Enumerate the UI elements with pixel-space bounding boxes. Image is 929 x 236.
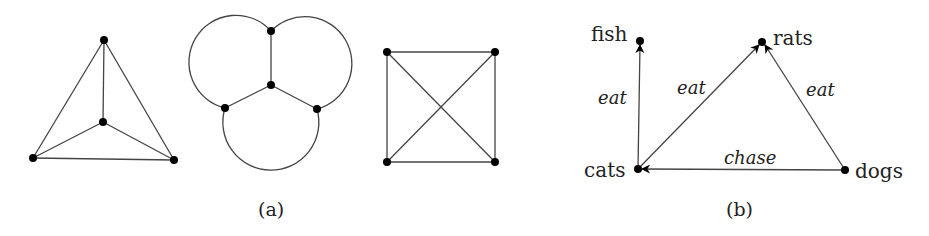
- node-fish: [636, 37, 644, 45]
- edge-label-dogs-cats: chase: [724, 147, 776, 168]
- edge-label-cats-rats: eat: [677, 77, 706, 98]
- node-top-right: [491, 48, 499, 56]
- node-dogs: [841, 166, 849, 174]
- graph-circles: [189, 15, 352, 170]
- arc-bottom: [223, 108, 319, 170]
- label-dogs: dogs: [855, 159, 903, 183]
- graph-food-chain: fish rats cats dogs eat eat eat chase: [584, 22, 903, 183]
- node-bottom-right: [491, 158, 499, 166]
- node-bottom-left: [383, 158, 391, 166]
- edge: [271, 85, 317, 109]
- graph-triangle: [29, 36, 178, 164]
- label-cats: cats: [584, 158, 625, 182]
- node-center: [99, 118, 107, 126]
- figure-canvas: (a) fish rats cats dogs eat eat eat chas…: [0, 0, 929, 236]
- edge-label-dogs-rats: eat: [806, 79, 835, 100]
- edge-dogs-rats: [765, 45, 845, 170]
- edge: [33, 158, 174, 160]
- edge: [103, 40, 104, 122]
- caption-b: (b): [726, 198, 753, 220]
- label-rats: rats: [773, 26, 813, 50]
- node-center: [267, 81, 275, 89]
- node-top-left: [383, 48, 391, 56]
- arc-left: [189, 15, 271, 108]
- graph-square: [383, 48, 499, 166]
- node-cats: [634, 165, 642, 173]
- edge-cats-fish: [638, 45, 640, 169]
- edge-label-cats-fish: eat: [598, 87, 627, 108]
- edge-dogs-cats: [642, 169, 845, 170]
- node-top: [267, 27, 275, 35]
- caption-a: (a): [258, 198, 284, 220]
- node-bottom-right: [170, 156, 178, 164]
- node-rats: [758, 38, 766, 46]
- node-right: [313, 105, 321, 113]
- edge: [225, 85, 271, 108]
- label-fish: fish: [591, 22, 628, 46]
- node-left: [221, 104, 229, 112]
- node-bottom-left: [29, 154, 37, 162]
- arc-right: [271, 17, 352, 109]
- node-top: [100, 36, 108, 44]
